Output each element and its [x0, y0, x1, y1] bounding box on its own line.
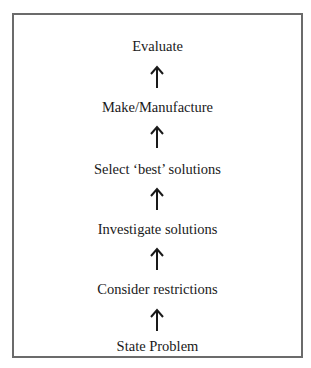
step-investigate-solutions: Investigate solutions: [14, 220, 301, 238]
step-make-manufacture: Make/Manufacture: [14, 98, 301, 116]
arrow-up-icon: [147, 187, 167, 211]
arrow-up-icon: [147, 308, 167, 332]
diagram-frame: Evaluate Make/Manufacture Select ‘best’ …: [12, 13, 303, 358]
arrow-up-icon: [147, 247, 167, 271]
step-consider-restrictions: Consider restrictions: [14, 280, 301, 298]
step-state-problem: State Problem: [14, 337, 301, 355]
step-evaluate: Evaluate: [14, 37, 301, 55]
step-select-best-solutions: Select ‘best’ solutions: [14, 160, 301, 178]
arrow-up-icon: [147, 125, 167, 149]
arrow-up-icon: [147, 65, 167, 89]
